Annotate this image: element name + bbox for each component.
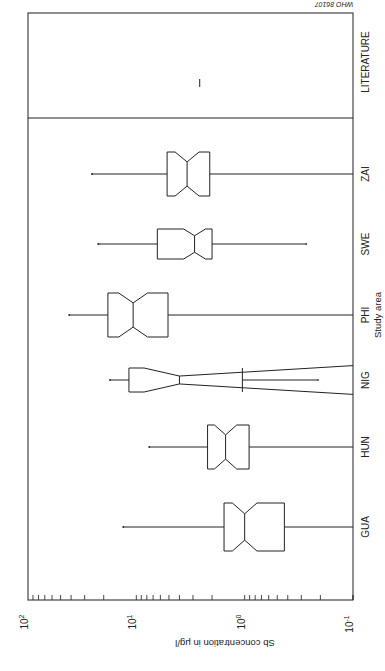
category-label-literature: LITERATURE xyxy=(360,31,371,93)
tick-label-01: 10-1 xyxy=(343,615,355,632)
box-gua xyxy=(122,503,353,551)
box-phi xyxy=(68,293,353,337)
tick-label-10: 101 xyxy=(126,614,138,629)
box-series xyxy=(68,79,353,551)
tick-label-1: 100 xyxy=(235,614,247,629)
svg-text:10-1: 10-1 xyxy=(343,615,355,632)
category-label-gua: GUA xyxy=(360,516,371,538)
value-axis-title: Sb concentration in μg/l xyxy=(175,638,274,649)
category-label-swe: SWE xyxy=(360,232,371,255)
category-label-nig: NIG xyxy=(360,371,371,389)
box-nig xyxy=(109,366,353,395)
category-label-phi: PHI xyxy=(360,307,371,324)
category-label-hun: HUN xyxy=(360,436,371,458)
category-axis-title: Study area xyxy=(372,291,383,338)
box-hun xyxy=(148,425,353,469)
svg-text:100: 100 xyxy=(235,614,247,629)
figure-id: WHO 86107 xyxy=(314,1,354,8)
plot-frame xyxy=(28,13,353,600)
boxplot-chart: WHO 86107 102 101 100 10-1 Sb concentrat… xyxy=(0,0,385,671)
svg-text:102: 102 xyxy=(18,614,30,629)
tick-label-100: 102 xyxy=(18,614,30,629)
value-axis-ticks xyxy=(33,595,353,600)
category-label-zai: ZAI xyxy=(360,166,371,182)
box-zai xyxy=(91,152,353,196)
svg-text:101: 101 xyxy=(126,614,138,629)
box-swe xyxy=(97,229,306,259)
